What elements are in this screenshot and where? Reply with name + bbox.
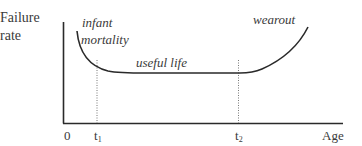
t1-label: t1 [94,128,102,144]
bathtub-diagram: Failure rate infant mortality useful lif… [0,0,362,146]
x-axis-label: Age [322,128,344,143]
infant-label-line1: infant [82,15,113,30]
y-axis-label-line1: Failure [0,10,40,25]
origin-label: 0 [64,128,71,143]
wearout-label: wearout [253,12,296,27]
infant-label-line2: mortality [81,32,129,47]
y-axis-label-line2: rate [0,28,21,43]
useful-life-label: useful life [136,55,187,70]
t2-label: t2 [235,128,243,144]
